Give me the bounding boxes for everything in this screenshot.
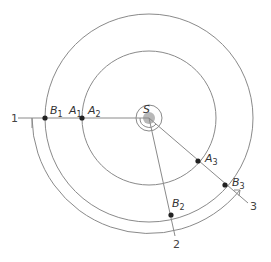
line-2-label: 2: [173, 238, 180, 251]
label-b3: B3: [232, 176, 245, 191]
point-a3: [195, 158, 200, 163]
line-2: [149, 118, 175, 236]
motion-arc: [32, 118, 240, 233]
sun-label: S: [143, 103, 150, 116]
orbit-diagram: S B1 A1 A2 A3 B3 B2 1 2 3: [0, 0, 271, 262]
label-a1: A1: [68, 104, 82, 119]
line-1-label: 1: [11, 112, 18, 125]
label-a2: A2: [87, 104, 101, 119]
label-b1: B1: [50, 104, 63, 119]
point-b3: [222, 182, 227, 187]
label-a3: A3: [204, 152, 218, 167]
line-3-label: 3: [250, 200, 257, 213]
point-b1: [42, 115, 47, 120]
label-b2: B2: [172, 197, 185, 212]
point-b2: [168, 212, 173, 217]
